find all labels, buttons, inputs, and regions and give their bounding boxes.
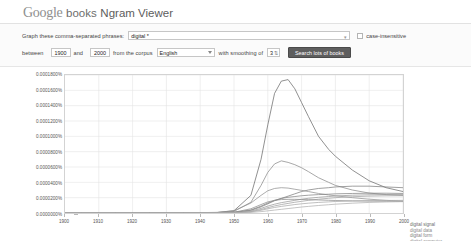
x-axis-tick-label: 1910 — [93, 219, 103, 224]
y-axis-tick-label: 0.0000600% — [36, 165, 62, 170]
x-axis-tick-mark — [302, 214, 303, 217]
x-axis-tick-mark — [166, 214, 167, 217]
corpus-select[interactable]: English — [157, 48, 215, 57]
y-axis-tick-label: 0.0000200% — [36, 196, 62, 201]
chart-svg — [65, 75, 403, 213]
x-axis-tick-label: 1930 — [161, 219, 171, 224]
y-axis-tick-label: 0.0001800% — [36, 72, 62, 77]
x-axis-tick-label: 1980 — [331, 219, 341, 224]
logo-google-text: Google — [23, 5, 62, 20]
y-axis-tick-label: 0.0001400% — [36, 103, 62, 108]
chart-container: 0.0000000%0.0000200%0.0000400%0.0000600%… — [0, 66, 471, 241]
x-axis-tick-mark — [234, 214, 235, 217]
y-axis-tick-label: 0.0000400% — [36, 180, 62, 185]
x-axis-tick-mark — [132, 214, 133, 217]
case-insensitive-label: case-insensitive — [366, 33, 406, 39]
logo-ngram-viewer-text: Ngram Viewer — [100, 7, 173, 19]
smoothing-stepper[interactable]: 3 ⇅ — [267, 48, 280, 57]
y-axis-tick-label: 0.0000800% — [36, 149, 62, 154]
case-insensitive-checkbox[interactable] — [357, 33, 363, 39]
x-axis: 1900191019201930194019501960197019801990… — [64, 214, 404, 228]
grid-lines — [65, 75, 403, 213]
ngram-viewer-page: Google books Ngram Viewer Graph these co… — [0, 0, 471, 241]
chevron-down-icon — [208, 51, 212, 54]
corpus-selected-value: English — [160, 50, 178, 56]
x-axis-tick-label: 1960 — [263, 219, 273, 224]
stepper-arrows-icon[interactable]: ⇅ — [274, 49, 278, 57]
query-form: Graph these comma-separated phrases: dig… — [0, 24, 471, 67]
search-button[interactable]: Search lots of books — [288, 47, 351, 58]
x-axis-tick-mark — [64, 214, 65, 217]
x-axis-tick-mark — [404, 214, 405, 217]
dropdown-caret-icon: ▾ — [344, 33, 347, 40]
y-axis: 0.0000000%0.0000200%0.0000400%0.0000600%… — [14, 74, 62, 214]
corpus-label: from the corpus — [113, 50, 153, 56]
year-end-input[interactable]: 2000 — [90, 48, 110, 57]
smoothing-label: with smoothing of — [219, 50, 263, 56]
year-start-input[interactable]: 1900 — [51, 48, 71, 57]
site-logo[interactable]: Google books Ngram Viewer — [23, 6, 173, 20]
smoothing-value: 3 — [270, 50, 273, 56]
between-label: between — [22, 50, 44, 56]
x-axis-tick-label: 1990 — [365, 219, 375, 224]
x-axis-tick-label: 1940 — [195, 219, 205, 224]
phrases-row: Graph these comma-separated phrases: dig… — [22, 28, 406, 43]
x-axis-tick-label: 1950 — [229, 219, 239, 224]
x-axis-tick-label: 1900 — [59, 219, 69, 224]
x-axis-tick-mark — [268, 214, 269, 217]
plot-area[interactable] — [64, 74, 404, 214]
phrases-input[interactable]: digital * ▾ — [128, 31, 350, 40]
y-axis-tick-label: 0.0001200% — [36, 118, 62, 123]
and-label: and — [74, 50, 83, 56]
y-axis-tick-label: 0.0000000% — [36, 212, 62, 217]
page-header: Google books Ngram Viewer — [0, 0, 471, 24]
case-insensitive-control[interactable]: case-insensitive — [357, 33, 406, 39]
phrases-label: Graph these comma-separated phrases: — [22, 33, 124, 39]
options-row: between 1900 and 2000 from the corpus En… — [22, 45, 351, 60]
chart-legend: digital signaldigital datadigital formdi… — [410, 222, 471, 241]
x-axis-tick-mark — [336, 214, 337, 217]
x-axis-tick-label: 1970 — [297, 219, 307, 224]
x-axis-tick-mark — [200, 214, 201, 217]
phrases-input-value: digital * — [131, 33, 149, 39]
x-axis-tick-label: 2000 — [399, 219, 409, 224]
logo-books-text: books — [66, 7, 97, 19]
y-axis-tick-label: 0.0001000% — [36, 134, 62, 139]
x-axis-tick-label: 1920 — [127, 219, 137, 224]
x-axis-tick-mark — [370, 214, 371, 217]
y-axis-tick-label: 0.0001600% — [36, 87, 62, 92]
x-axis-tick-mark — [98, 214, 99, 217]
